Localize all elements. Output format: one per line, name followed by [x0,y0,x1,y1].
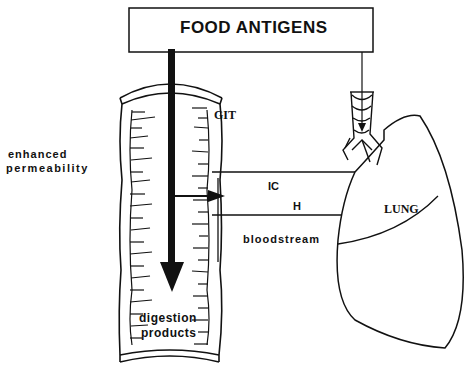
airway-arrow-head [358,123,366,132]
h-label: H [293,200,301,212]
lung-outline [337,115,463,348]
git-label: GIT [214,108,236,123]
diagram-canvas [0,0,466,375]
bloodstream-label: bloodstream [243,233,320,245]
digestion-arrow [160,49,184,292]
digestion-label: digestion [139,311,197,325]
ic-label: IC [268,180,279,192]
lung-label: LUNG [384,202,419,217]
food-antigens-text: FOOD ANTIGENS [180,18,328,37]
products-label: products [141,326,196,340]
enhanced-label: enhanced [8,148,67,160]
bloodstream-channel [212,172,355,262]
food-antigens-label: FOOD ANTIGENS [180,18,328,38]
permeability-label: permeability [6,162,89,174]
